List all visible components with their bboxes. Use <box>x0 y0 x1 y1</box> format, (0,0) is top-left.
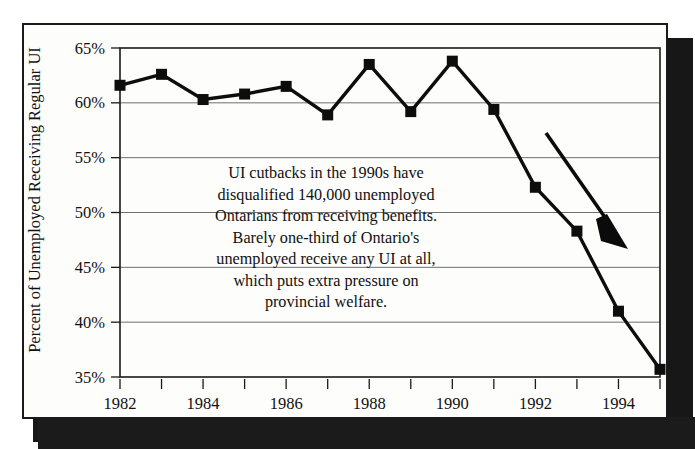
data-point-marker[interactable] <box>239 89 250 100</box>
y-tick-labels-group: 65%60%55%50%45%40%35% <box>75 39 106 387</box>
annotation-line: provincial welfare. <box>178 292 474 314</box>
annotation-line: Barely one-third of Ontario's <box>178 228 474 250</box>
data-point-marker[interactable] <box>488 104 499 115</box>
annotation-line: UI cutbacks in the 1990s have <box>178 163 474 185</box>
data-point-marker[interactable] <box>364 59 375 70</box>
y-tick-label: 65% <box>75 39 106 58</box>
data-point-marker[interactable] <box>281 81 292 92</box>
x-tick-label: 1992 <box>519 394 552 413</box>
y-tick-label: 45% <box>75 258 106 277</box>
x-tick-labels-group: 1982198419861988199019921994 <box>104 379 661 413</box>
y-tick-label: 35% <box>75 368 106 387</box>
trend-arrow-head <box>596 214 628 249</box>
data-point-marker[interactable] <box>530 182 541 193</box>
data-point-marker[interactable] <box>571 226 582 237</box>
annotation-line: which puts extra pressure on <box>178 271 474 293</box>
y-tick-label: 55% <box>75 148 106 167</box>
y-tick-label: 60% <box>75 93 106 112</box>
data-point-marker[interactable] <box>156 69 167 80</box>
data-point-marker[interactable] <box>405 106 416 117</box>
annotation-line: unemployed receive any UI at all, <box>178 249 474 271</box>
x-tick-label: 1994 <box>602 394 635 413</box>
data-point-marker[interactable] <box>115 80 126 91</box>
figure-root: Percent of Unemployed Receiving Regular … <box>0 0 695 449</box>
data-point-marker[interactable] <box>198 94 209 105</box>
y-tick-label: 50% <box>75 203 106 222</box>
y-tick-label: 40% <box>75 313 106 332</box>
annotation-line: disqualified 140,000 unemployed <box>178 185 474 207</box>
annotation-text-block: UI cutbacks in the 1990s havedisqualifie… <box>178 163 474 314</box>
annotation-line: Ontarians from receiving benefits. <box>178 206 474 228</box>
data-point-marker[interactable] <box>613 306 624 317</box>
x-tick-label: 1986 <box>270 394 303 413</box>
x-tick-label: 1982 <box>104 394 137 413</box>
data-point-marker[interactable] <box>322 109 333 120</box>
trend-arrow-group <box>546 133 628 249</box>
data-point-marker[interactable] <box>655 364 666 375</box>
x-tick-label: 1984 <box>187 394 220 413</box>
x-tick-label: 1988 <box>353 394 386 413</box>
x-tick-label: 1990 <box>436 394 469 413</box>
data-point-marker[interactable] <box>447 56 458 67</box>
